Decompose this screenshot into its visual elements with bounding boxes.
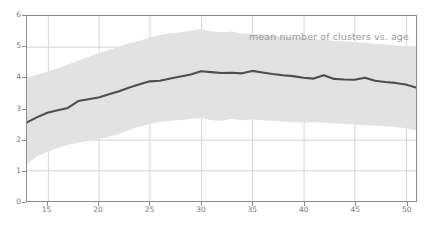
y-tick-mark: [22, 202, 26, 203]
y-tick-mark: [22, 15, 26, 16]
plot-area: [26, 15, 417, 202]
x-tick-label: 25: [137, 205, 161, 214]
y-tick-mark: [22, 109, 26, 110]
y-tick-label: 1: [7, 166, 21, 175]
x-tick-mark: [47, 202, 48, 206]
chart-figure: 0123456 1520253035404550 mean number of …: [0, 0, 435, 230]
x-tick-label: 40: [292, 205, 316, 214]
chart-canvas: [27, 16, 416, 201]
x-tick-mark: [355, 202, 356, 206]
x-tick-label: 45: [343, 205, 367, 214]
y-tick-label: 0: [7, 197, 21, 206]
x-tick-mark: [407, 202, 408, 206]
x-tick-mark: [201, 202, 202, 206]
x-tick-mark: [98, 202, 99, 206]
x-tick-mark: [252, 202, 253, 206]
y-tick-label: 5: [7, 41, 21, 50]
confidence-band: [27, 29, 416, 164]
y-tick-label: 2: [7, 135, 21, 144]
y-tick-mark: [22, 140, 26, 141]
chart-annotation: mean number of clusters vs. age: [249, 31, 409, 43]
y-tick-mark: [22, 77, 26, 78]
x-tick-label: 15: [35, 205, 59, 214]
y-tick-mark: [22, 46, 26, 47]
y-tick-label: 6: [7, 10, 21, 19]
y-tick-label: 3: [7, 104, 21, 113]
x-tick-mark: [149, 202, 150, 206]
x-tick-label: 20: [86, 205, 110, 214]
y-tick-mark: [22, 171, 26, 172]
x-tick-label: 30: [189, 205, 213, 214]
y-tick-label: 4: [7, 72, 21, 81]
x-tick-mark: [304, 202, 305, 206]
x-tick-label: 35: [240, 205, 264, 214]
x-tick-label: 50: [395, 205, 419, 214]
